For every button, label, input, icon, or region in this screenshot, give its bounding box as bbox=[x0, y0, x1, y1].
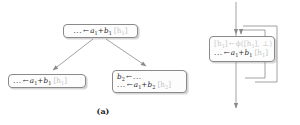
edge-root-to-left bbox=[53, 39, 93, 70]
assign-arrow-icon: ← bbox=[229, 39, 235, 48]
node-right-child[interactable]: b2←... ...←a1+b2[h2] bbox=[112, 70, 187, 93]
node-left-line-1: ...←a1+b1[h1] bbox=[13, 77, 81, 85]
node-left-tag: [h1] bbox=[53, 76, 67, 85]
node-loop-tag: [h1] bbox=[254, 48, 268, 57]
assign-arrow-icon: ← bbox=[224, 48, 230, 57]
caption-a: (a) bbox=[83, 106, 123, 116]
node-right-line-2: ...←a1+b2[h2] bbox=[117, 81, 182, 89]
figure-container: ...←a1+b1[h1] ...←a1+b1[h1] b2←... ...←a… bbox=[0, 0, 300, 125]
panel-b-edges bbox=[205, 0, 300, 125]
assign-arrow-icon: ← bbox=[127, 80, 133, 89]
node-loop-instr-line: ...←a1+b1[h1] bbox=[214, 49, 270, 57]
assign-arrow-icon: ← bbox=[23, 76, 29, 85]
panel-a: ...←a1+b1[h1] ...←a1+b1[h1] b2←... ...←a… bbox=[0, 0, 205, 125]
node-right-tag: [h2] bbox=[157, 80, 171, 89]
node-loop-block[interactable]: [h1]←ϕ([h1], ⊥) ...←a1+b1[h1] bbox=[209, 36, 275, 62]
node-root-line-1: ...←a1+b1[h1] bbox=[68, 27, 133, 35]
panel-b: [h1]←ϕ([h1], ⊥) ...←a1+b1[h1] (b) bbox=[205, 0, 300, 125]
node-left-child[interactable]: ...←a1+b1[h1] bbox=[8, 74, 86, 88]
edge-root-to-right bbox=[106, 39, 146, 66]
node-root-tag: [h1] bbox=[114, 26, 128, 35]
node-root[interactable]: ...←a1+b1[h1] bbox=[63, 24, 138, 38]
node-loop-phi-line: [h1]←ϕ([h1], ⊥) bbox=[214, 40, 270, 48]
assign-arrow-icon: ← bbox=[83, 26, 89, 35]
